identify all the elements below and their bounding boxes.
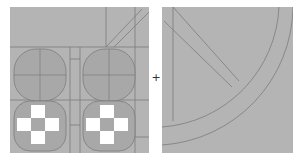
right-tile-drawing — [162, 7, 293, 153]
right-tile-panel — [162, 7, 293, 153]
plus-operator: + — [151, 72, 161, 84]
left-tile-panel — [10, 7, 149, 153]
left-tile-drawing — [10, 7, 149, 153]
